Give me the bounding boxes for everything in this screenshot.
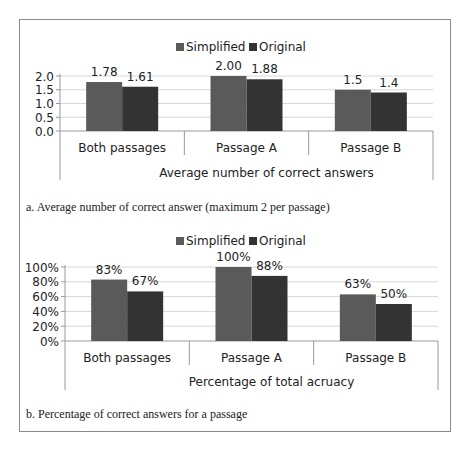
data-label: 1.61 bbox=[127, 70, 154, 84]
legend-swatch-simplified bbox=[176, 43, 184, 51]
bar-original bbox=[122, 87, 158, 131]
legend-label-simplified: Simplified bbox=[186, 234, 245, 248]
legend-label-original: Original bbox=[259, 234, 306, 248]
caption-a: a. Average number of correct answer (max… bbox=[26, 200, 330, 215]
category-label: Passage A bbox=[221, 351, 283, 365]
data-label: 2.00 bbox=[215, 59, 242, 73]
data-label: 1.5 bbox=[343, 73, 362, 87]
data-label: 100% bbox=[216, 250, 250, 264]
category-label: Passage B bbox=[340, 141, 401, 155]
bar-original bbox=[247, 79, 283, 131]
category-label: Passage B bbox=[345, 351, 406, 365]
legend-swatch-original bbox=[249, 43, 257, 51]
y-tick-label: 2.0 bbox=[35, 70, 54, 84]
x-axis-title: Average number of correct answers bbox=[159, 166, 374, 180]
bar-simplified bbox=[340, 294, 376, 341]
data-label: 83% bbox=[96, 263, 123, 277]
charts-canvas: 0.00.51.01.52.01.781.61Both passages2.00… bbox=[0, 0, 466, 450]
bar-simplified bbox=[91, 280, 127, 341]
legend-label-original: Original bbox=[259, 40, 306, 54]
bar-original bbox=[252, 276, 288, 341]
data-label: 50% bbox=[380, 287, 407, 301]
y-tick-label: 0.0 bbox=[35, 125, 54, 139]
y-tick-label: 0% bbox=[40, 335, 59, 349]
legend-swatch-original bbox=[249, 237, 257, 245]
data-label: 1.78 bbox=[91, 65, 118, 79]
bar-simplified bbox=[335, 90, 371, 131]
y-tick-label: 1.5 bbox=[35, 83, 54, 97]
category-label: Passage A bbox=[216, 141, 278, 155]
y-tick-label: 1.0 bbox=[35, 97, 54, 111]
y-tick-label: 0.5 bbox=[35, 111, 54, 125]
bar-simplified bbox=[216, 267, 252, 341]
y-tick-label: 40% bbox=[32, 305, 59, 319]
data-label: 1.88 bbox=[251, 62, 278, 76]
legend-label-simplified: Simplified bbox=[186, 40, 245, 54]
y-tick-label: 80% bbox=[32, 275, 59, 289]
data-label: 88% bbox=[256, 259, 283, 273]
category-label: Both passages bbox=[78, 141, 166, 155]
bar-original bbox=[127, 291, 163, 341]
bar-simplified bbox=[211, 76, 247, 131]
bar-original bbox=[376, 304, 412, 341]
y-tick-label: 20% bbox=[32, 320, 59, 334]
bar-original bbox=[371, 93, 407, 132]
data-label: 67% bbox=[132, 274, 159, 288]
y-tick-label: 100% bbox=[25, 261, 59, 275]
x-axis-title: Percentage of total acruacy bbox=[189, 375, 355, 389]
caption-b: b. Percentage of correct answers for a p… bbox=[26, 407, 247, 422]
data-label: 63% bbox=[344, 277, 371, 291]
y-tick-label: 60% bbox=[32, 290, 59, 304]
category-label: Both passages bbox=[83, 351, 171, 365]
legend-swatch-simplified bbox=[176, 237, 184, 245]
bar-simplified bbox=[86, 82, 122, 131]
data-label: 1.4 bbox=[379, 76, 398, 90]
